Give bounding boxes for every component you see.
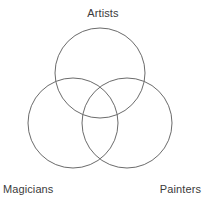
- venn-label-painters: Painters: [160, 183, 201, 196]
- venn-diagram-canvas: [0, 0, 206, 209]
- venn-circle-magicians: [28, 78, 118, 168]
- venn-label-artists: Artists: [0, 7, 206, 20]
- venn-label-magicians: Magicians: [3, 183, 53, 196]
- venn-circle-artists: [55, 28, 145, 118]
- venn-diagram-figure: Artists Magicians Painters: [0, 0, 206, 209]
- venn-circle-painters: [82, 78, 172, 168]
